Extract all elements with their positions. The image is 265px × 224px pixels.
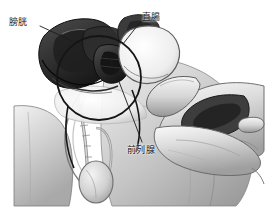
label-bladder: 膀胱	[9, 17, 28, 27]
rectal-cavity-group	[119, 26, 180, 84]
label-prostate: 前列腺	[127, 145, 155, 155]
illustration-canvas	[0, 0, 265, 224]
medical-illustration-figure: 膀胱 直腸 前列腺	[0, 0, 265, 224]
label-rectum: 直腸	[142, 12, 161, 22]
testis-group	[79, 161, 113, 203]
